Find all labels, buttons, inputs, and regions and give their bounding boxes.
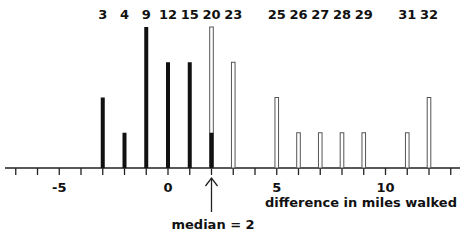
bar-hollow bbox=[318, 133, 322, 168]
bar-hollow bbox=[275, 98, 279, 169]
median-label: median = 2 bbox=[172, 217, 255, 232]
bar-solid bbox=[166, 62, 170, 168]
rank-label: 3 bbox=[98, 7, 107, 22]
axis-tick-label: -5 bbox=[52, 180, 66, 195]
dot-bar-chart: -50510 13491215202325262728293132 median… bbox=[0, 0, 465, 235]
rank-label: 15 bbox=[181, 7, 199, 22]
rank-label: 26 bbox=[289, 7, 307, 22]
axis-tick-label: 0 bbox=[163, 180, 172, 195]
bar-solid bbox=[101, 98, 105, 169]
rank-label: 4 bbox=[120, 7, 129, 22]
bar-hollow bbox=[231, 62, 235, 168]
rank-label: 12 bbox=[159, 7, 177, 22]
bar-solid bbox=[188, 62, 192, 168]
axis-tick-label: 5 bbox=[272, 180, 281, 195]
rank-label: 31 bbox=[398, 7, 416, 22]
bar-hollow bbox=[340, 133, 344, 168]
rank-label: 9 bbox=[142, 7, 151, 22]
bar-hollow bbox=[427, 98, 431, 169]
bar-solid bbox=[123, 133, 127, 168]
bars bbox=[0, 27, 431, 168]
bar-hollow bbox=[362, 133, 366, 168]
axis-tick-label: 10 bbox=[376, 180, 394, 195]
rank-label: 23 bbox=[224, 7, 242, 22]
rank-label: 25 bbox=[268, 7, 286, 22]
rank-label: 29 bbox=[355, 7, 373, 22]
rank-label: 27 bbox=[311, 7, 329, 22]
x-axis-label: difference in miles walked bbox=[265, 195, 457, 210]
rank-label: 32 bbox=[420, 7, 438, 22]
rank-label: 28 bbox=[333, 7, 351, 22]
x-axis: -50510 bbox=[0, 168, 460, 195]
bar-hollow bbox=[405, 133, 409, 168]
bar-solid-part bbox=[210, 133, 214, 168]
rank-label: 20 bbox=[202, 7, 220, 22]
bar-hollow bbox=[297, 133, 301, 168]
median-annotation: median = 2 bbox=[172, 178, 255, 232]
bar-solid bbox=[144, 27, 148, 168]
rank-labels: 13491215202325262728293132 bbox=[0, 7, 438, 22]
